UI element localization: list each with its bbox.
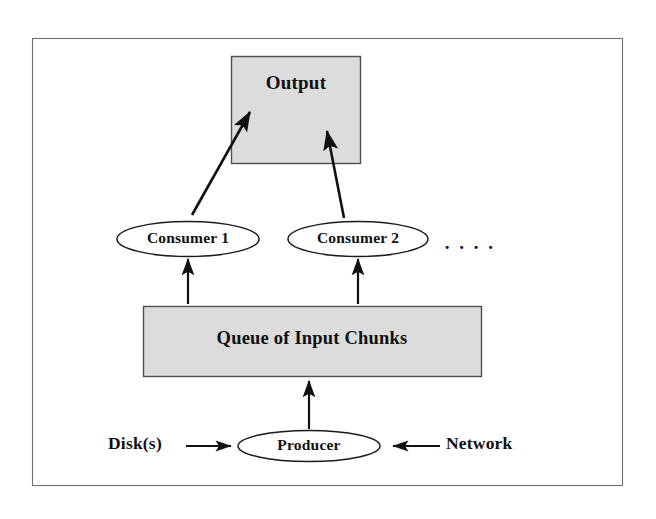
consumer-2-label: Consumer 2 <box>288 229 428 247</box>
output-label: Output <box>231 72 361 94</box>
diagram-canvas: Output Consumer 1 Consumer 2 . . . . Que… <box>0 0 656 519</box>
producer-label: Producer <box>238 436 380 454</box>
disk-label: Disk(s) <box>108 433 182 454</box>
network-label: Network <box>446 433 536 454</box>
queue-label: Queue of Input Chunks <box>143 328 481 349</box>
more-consumers-ellipsis: . . . . <box>440 232 500 254</box>
consumer-1-label: Consumer 1 <box>117 229 259 247</box>
